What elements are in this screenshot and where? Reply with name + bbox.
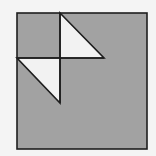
gray-square bbox=[17, 13, 147, 149]
diagram-canvas bbox=[0, 0, 156, 156]
